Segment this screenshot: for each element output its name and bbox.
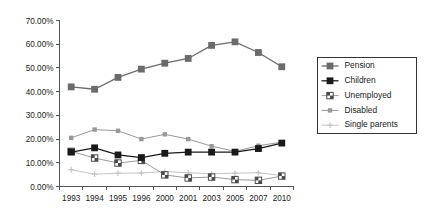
y-tick-label: 10.00% (26, 159, 54, 168)
data-point (208, 42, 215, 49)
y-tick-label: 20.00% (26, 135, 54, 144)
data-point (138, 154, 145, 161)
data-point (232, 176, 238, 182)
marker-quad-br (95, 158, 98, 161)
y-tick-label: 40.00% (26, 88, 54, 97)
x-tick-label: 2003 (202, 194, 221, 203)
data-point (92, 171, 98, 177)
data-point (115, 74, 122, 81)
data-point (115, 170, 121, 176)
data-point (68, 84, 75, 91)
marker-quad-br (330, 96, 333, 99)
x-tick-label: 2000 (156, 194, 175, 203)
y-tick-label: 30.00% (26, 111, 54, 120)
marker-quad-br (258, 180, 261, 183)
data-point (232, 38, 239, 45)
marker-quad-br (118, 163, 121, 166)
data-point (278, 63, 285, 70)
chart-container: 0.00%10.00%20.00%30.00%40.00%50.00%60.00… (0, 0, 424, 217)
data-point (278, 140, 285, 147)
line-chart: 0.00%10.00%20.00%30.00%40.00%50.00%60.00… (0, 0, 424, 217)
data-point (68, 167, 74, 173)
marker-quad-br (235, 180, 238, 183)
data-point (232, 149, 239, 156)
data-point (115, 152, 122, 159)
series-line (71, 143, 282, 157)
marker-quad-tl (162, 172, 165, 175)
data-point (185, 175, 191, 181)
marker-quad-tl (185, 175, 188, 178)
legend-marker (327, 63, 334, 70)
data-point (186, 137, 190, 141)
y-tick-label: 50.00% (26, 64, 54, 73)
series-unemployed (68, 148, 285, 183)
data-point (139, 170, 145, 176)
series-layer (68, 38, 285, 183)
data-point (232, 170, 238, 176)
data-point (69, 136, 73, 140)
data-point (208, 149, 215, 156)
data-point (91, 144, 98, 151)
legend-label: Children (345, 75, 377, 85)
data-point (256, 170, 262, 176)
data-point (68, 149, 75, 156)
data-point (255, 145, 262, 152)
marker-quad-br (282, 176, 285, 179)
legend-marker (327, 77, 334, 84)
data-point (255, 177, 261, 183)
legend-label: Unemployed (345, 90, 392, 100)
series-children (68, 140, 285, 161)
marker-quad-tl (327, 92, 330, 95)
y-tick-label: 60.00% (26, 40, 54, 49)
data-point (161, 60, 168, 67)
y-tick-label: 0.00% (30, 183, 53, 192)
legend-marker (328, 108, 332, 112)
data-point (209, 144, 213, 148)
x-tick-label: 1994 (85, 194, 104, 203)
y-tick-label: 70.00% (26, 17, 54, 26)
marker-quad-tl (115, 160, 118, 163)
x-tick-label: 2001 (179, 194, 198, 203)
series-line (71, 170, 282, 176)
legend-label: Disabled (345, 105, 378, 115)
data-point (162, 172, 168, 178)
data-point (138, 66, 145, 73)
x-tick-label: 2010 (273, 194, 292, 203)
marker-quad-tl (208, 174, 211, 177)
x-tick-label: 1996 (132, 194, 151, 203)
marker-quad-tl (91, 155, 94, 158)
data-point (92, 127, 96, 131)
data-point (91, 86, 98, 93)
data-point (185, 55, 192, 62)
data-point (208, 174, 214, 180)
x-axis: 1993199419951996200020012003200520072010 (60, 187, 294, 203)
data-point (279, 173, 285, 179)
marker-quad-br (165, 175, 168, 178)
data-point (116, 129, 120, 133)
series-line (71, 130, 282, 152)
marker-quad-tl (279, 173, 282, 176)
marker-quad-br (188, 178, 191, 181)
x-tick-label: 1995 (109, 194, 128, 203)
marker-quad-tl (255, 177, 258, 180)
series-line (71, 151, 282, 180)
chart-legend: PensionChildrenUnemployedDisabledSingle … (318, 58, 417, 134)
data-point (161, 150, 168, 157)
x-tick-label: 2007 (249, 194, 268, 203)
data-point (139, 137, 143, 141)
data-point (115, 160, 121, 166)
legend-marker (327, 92, 333, 98)
legend-label: Pension (345, 60, 376, 70)
data-point (163, 132, 167, 136)
data-point (91, 155, 97, 161)
x-tick-label: 1993 (62, 194, 81, 203)
y-axis: 0.00%10.00%20.00%30.00%40.00%50.00%60.00… (26, 17, 60, 192)
data-point (255, 49, 262, 56)
series-pension (68, 38, 285, 92)
marker-quad-br (212, 177, 215, 180)
series-line (71, 42, 282, 89)
marker-quad-tl (232, 176, 235, 179)
data-point (185, 149, 192, 156)
legend-label: Single parents (345, 119, 399, 129)
x-tick-label: 2005 (226, 194, 245, 203)
